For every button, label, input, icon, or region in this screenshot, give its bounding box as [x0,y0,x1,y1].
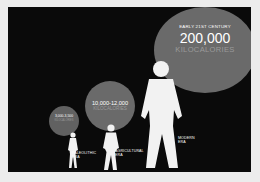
paleolithic-unit: KILOCALORIES [49,120,79,123]
modern-value: 200,000 [154,31,251,45]
paleolithic-era-label: PALEOLITHIC ERA [72,151,96,159]
modern-heading: EARLY 21ST CENTURY [154,25,251,29]
agricultural-unit: KILOCALORIES [85,107,135,112]
modern-era-line2: ERA [178,140,195,144]
modern-unit: KILOCALORIES [154,46,251,54]
agricultural-era-label: AGRICULTURAL ERA [115,149,144,157]
paleolithic-era-line2: ERA [72,155,96,159]
agricultural-era-line2: ERA [115,153,144,157]
modern-figure-icon [136,60,188,172]
modern-era-label: MODERN ERA [178,136,195,144]
agricultural-figure-icon [100,124,122,172]
infographic-panel: 3,000-3,500 KILOCALORIES 10,000-12,000 K… [8,7,251,172]
paleolithic-value: 3,000-3,500 [49,115,79,118]
